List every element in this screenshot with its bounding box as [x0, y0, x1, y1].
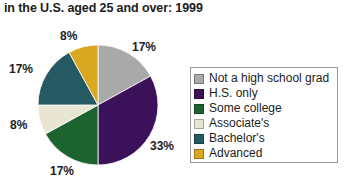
legend-item-label: H.S. only	[209, 87, 258, 100]
legend-item-advanced[interactable]: Advanced	[194, 146, 337, 161]
legend-item-associates[interactable]: Associate's	[194, 116, 337, 131]
legend-swatch-icon	[194, 119, 204, 129]
legend-item-hs-only[interactable]: H.S. only	[194, 86, 337, 101]
legend-item-bachelors[interactable]: Bachelor's	[194, 131, 337, 146]
pie-slice-group	[38, 45, 158, 165]
legend-item-some-college[interactable]: Some college	[194, 101, 337, 116]
legend-item-label: Associate's	[209, 117, 269, 130]
legend-swatch-icon	[194, 89, 204, 99]
pie-svg	[0, 0, 190, 190]
legend-swatch-icon	[194, 104, 204, 114]
legend-item-not-a-high-school-grad[interactable]: Not a high school grad	[194, 71, 337, 86]
slice-label-associates: 8%	[10, 118, 27, 132]
slice-label-advanced: 8%	[60, 29, 77, 43]
slice-label-hs-only: 33%	[150, 139, 174, 153]
legend-swatch-icon	[194, 149, 204, 159]
legend-swatch-icon	[194, 134, 204, 144]
pie-plot-area: 17% 33% 17% 8% 17% 8%	[0, 0, 190, 190]
legend: Not a high school grad H.S. only Some co…	[190, 67, 338, 163]
legend-item-label: Some college	[209, 102, 282, 115]
pie-chart-figure: in the U.S. aged 25 and over: 1999 17% 3…	[0, 0, 349, 190]
slice-label-not-a-high-school-grad: 17%	[132, 40, 156, 54]
legend-swatch-icon	[194, 74, 204, 84]
legend-item-label: Bachelor's	[209, 132, 265, 145]
legend-item-label: Advanced	[209, 147, 262, 160]
slice-label-some-college: 17%	[50, 164, 74, 178]
legend-item-label: Not a high school grad	[209, 72, 329, 85]
slice-label-bachelors: 17%	[9, 62, 33, 76]
